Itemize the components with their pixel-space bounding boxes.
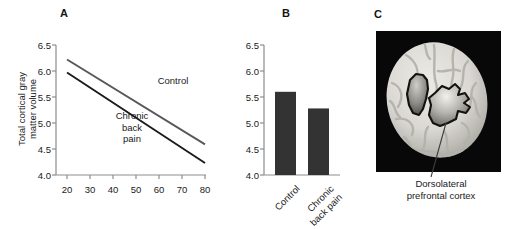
panel-a-cbp-label-line1: Chronic: [101, 110, 163, 122]
panel-c-caption-line2: prefrontal cortex: [366, 190, 516, 202]
brain-render: [376, 31, 501, 179]
panel-c-letter: C: [374, 8, 382, 20]
panel-a-line-chart: A Total cortical gray matter volume 6.5 …: [0, 0, 232, 229]
figure-container: A Total cortical gray matter volume 6.5 …: [0, 0, 519, 229]
panel-b-bar-control: [275, 92, 296, 175]
panel-a-cbp-label-line3: pain: [101, 133, 163, 145]
panel-b-bar-chart: B 6.5 6.0 5.5 5.0 4.5 4.0 Control Chroni…: [232, 0, 362, 229]
panel-b-bar-chronic-back-pain: [308, 108, 329, 175]
panel-c-caption: Dorsolateral prefrontal cortex: [366, 178, 516, 202]
panel-a-series-label-control: Control: [145, 75, 201, 87]
panel-a-series-label-chronic-back-pain: Chronic back pain: [101, 110, 163, 145]
panel-a-cbp-label-line2: back: [101, 122, 163, 134]
panel-c-brain-image: C: [362, 0, 519, 229]
panel-c-caption-line1: Dorsolateral: [366, 178, 516, 190]
